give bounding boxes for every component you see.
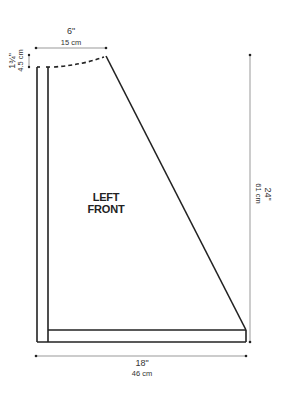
left-front-piece-outline xyxy=(37,56,246,342)
length-inches-label: 24" xyxy=(263,183,273,205)
piece-title-line1: LEFT xyxy=(86,191,126,203)
length-cm-label: 61 cm xyxy=(254,179,263,209)
piece-title-line2: FRONT xyxy=(86,203,126,215)
piece-title: LEFT FRONT xyxy=(86,191,126,215)
schematic-drawing xyxy=(0,0,289,396)
top-width-cm-label: 15 cm xyxy=(56,38,86,47)
bottom-width-cm-label: 46 cm xyxy=(127,369,157,378)
top-width-inches-label: 6" xyxy=(61,26,81,36)
neck-drop-cm-label: 4.5 cm xyxy=(16,46,25,76)
neckline-dashed-curve xyxy=(54,57,104,67)
bottom-width-inches-label: 18" xyxy=(130,358,154,368)
